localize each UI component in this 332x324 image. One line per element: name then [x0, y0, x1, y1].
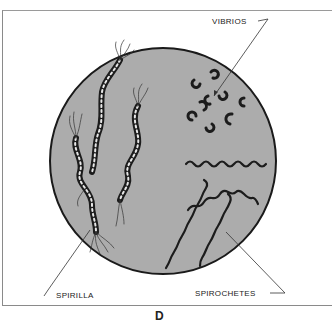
label-spirochetes: SPIROCHETES [195, 289, 256, 298]
label-vibrios: VIBRIOS [212, 17, 247, 26]
microscope-field [50, 48, 276, 274]
spirilla-leader [44, 230, 90, 296]
label-spirilla: SPIRILLA [56, 291, 94, 300]
spirochetes-leader [226, 232, 285, 293]
figure-caption: D [155, 309, 164, 323]
